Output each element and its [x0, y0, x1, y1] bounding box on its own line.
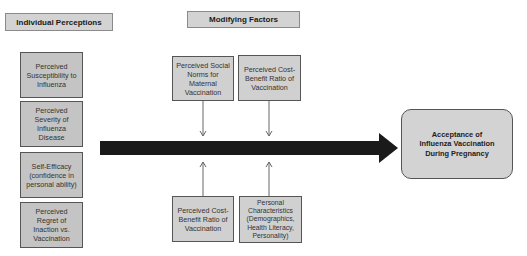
main-arrow-head [379, 133, 398, 163]
outcome-label: Acceptance of Influenza Vaccination Duri… [419, 130, 494, 159]
box-outcome-acceptance: Acceptance of Influenza Vaccination Duri… [401, 109, 513, 179]
main-arrow-shaft [100, 141, 381, 155]
